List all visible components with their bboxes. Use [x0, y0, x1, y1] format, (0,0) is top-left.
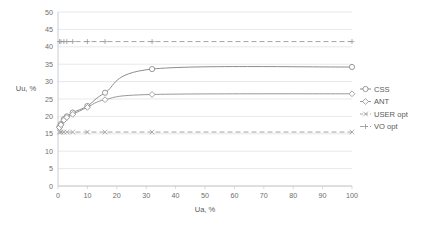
- legend-marker: [363, 99, 369, 105]
- legend-label: CSS: [374, 85, 390, 94]
- y-axis-tick-label: 30: [45, 77, 53, 86]
- y-axis-tick-label: 5: [49, 164, 53, 173]
- y-axis-tick-label: 20: [45, 112, 53, 121]
- legend-item-user-opt[interactable]: USER opt: [360, 110, 409, 119]
- y-axis-title: Uu, %: [16, 84, 37, 93]
- y-axis-tick-label: 10: [45, 147, 53, 156]
- x-axis-tick-label: 80: [289, 191, 297, 200]
- y-axis-tick-label: 50: [45, 8, 53, 17]
- x-axis-tick-label: 40: [172, 191, 180, 200]
- x-axis-title: Ua, %: [195, 205, 216, 214]
- legend-item-css[interactable]: CSS: [360, 85, 390, 94]
- x-axis-tick-label: 100: [346, 191, 358, 200]
- legend-item-vo-opt[interactable]: VO opt: [360, 122, 399, 131]
- y-axis-tick-label: 40: [45, 42, 53, 51]
- x-axis-tick-label: 70: [260, 191, 268, 200]
- legend: CSSANTUSER optVO opt: [360, 85, 409, 132]
- y-axis-tick-label: 0: [49, 182, 53, 191]
- legend-label: VO opt: [374, 122, 399, 131]
- x-axis-tick-label: 60: [230, 191, 238, 200]
- y-axis-tick-label: 45: [45, 25, 53, 34]
- x-axis-tick-label: 0: [56, 191, 60, 200]
- x-axis-tick-label: 30: [142, 191, 150, 200]
- y-axis-tick-label: 35: [45, 60, 53, 69]
- legend-item-ant[interactable]: ANT: [360, 97, 390, 106]
- chart-container: 0510152025303540455001020304050607080901…: [0, 0, 430, 231]
- x-axis-tick-label: 50: [201, 191, 209, 200]
- x-axis-tick-label: 90: [319, 191, 327, 200]
- legend-marker: [363, 124, 368, 129]
- data-point-marker: [149, 66, 154, 71]
- x-axis-tick-label: 20: [113, 191, 121, 200]
- x-axis-tick-label: 10: [83, 191, 91, 200]
- legend-label: ANT: [374, 97, 390, 106]
- y-axis-tick-label: 25: [45, 95, 53, 104]
- line-chart: 0510152025303540455001020304050607080901…: [0, 0, 430, 231]
- data-point-marker: [349, 64, 354, 69]
- data-point-marker: [102, 90, 107, 95]
- legend-marker: [363, 86, 368, 91]
- y-axis-tick-label: 15: [45, 129, 53, 138]
- legend-label: USER opt: [374, 110, 409, 119]
